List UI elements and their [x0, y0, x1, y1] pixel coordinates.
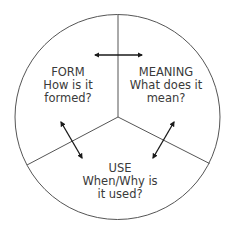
segment-form: FORM How is it formed?: [43, 66, 92, 105]
segment-use-line2: it used?: [82, 188, 157, 201]
segment-meaning-line2: mean?: [130, 92, 203, 105]
segment-use: USE When/Why is it used?: [82, 162, 157, 201]
segment-meaning: MEANING What does it mean?: [130, 66, 203, 105]
segment-form-line2: formed?: [43, 92, 92, 105]
